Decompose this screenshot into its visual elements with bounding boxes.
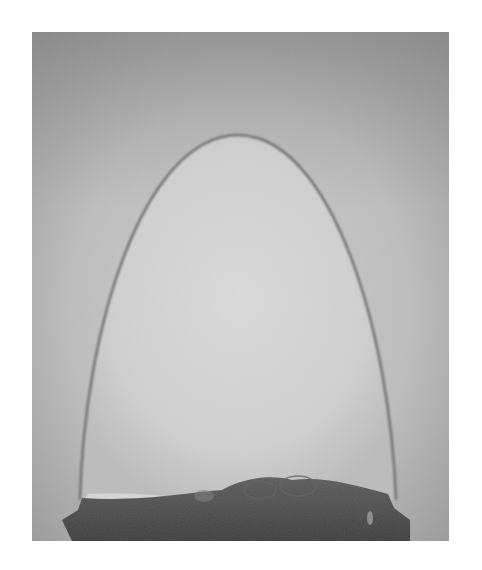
- bubble-photograph: Grayscale photograph of a tall parabolic…: [32, 32, 449, 541]
- bubble-photo-svg: [32, 32, 449, 541]
